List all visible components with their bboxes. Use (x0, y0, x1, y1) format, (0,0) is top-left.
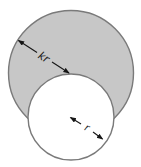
small-circle (28, 74, 114, 160)
circles-diagram: kr r (0, 0, 141, 167)
figure-canvas: kr r (0, 0, 141, 167)
